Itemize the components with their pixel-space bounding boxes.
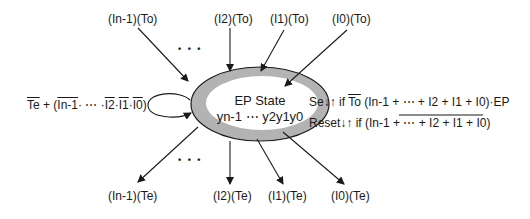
reset-prefix: Reset↓↑ if (	[309, 116, 369, 130]
arrow-out-i1	[257, 139, 283, 184]
output-label-i1-te: (I1)(Te)	[268, 189, 307, 203]
output-label-i2-te: (I2)(Te)	[213, 189, 252, 203]
ellipsis-bottom: • • •	[178, 155, 202, 165]
i2-bar: I2	[105, 98, 115, 112]
i0-bar: I0	[133, 98, 143, 112]
close-paren: )	[143, 98, 147, 112]
set-rule: Se↓↑ if To (In-1 + ⋯ + I2 + I1 + I0)·EP	[309, 95, 510, 109]
to-bar: To	[348, 95, 361, 109]
mid-ellipsis: · ⋯ ·	[78, 98, 105, 112]
plus-open: + (	[40, 98, 58, 112]
arrow-in-i1	[261, 30, 284, 71]
set-expr: (In-1 + ⋯ + I2 + I1 + I0)·EP	[361, 95, 510, 109]
ellipsis-top: • • •	[178, 44, 202, 54]
output-label-in-1-te: (In-1)(Te)	[108, 189, 157, 203]
reset-expr: In-1 + ⋯ + I2 + I1 + I0	[369, 116, 486, 130]
in-1-bar: In-1	[57, 98, 78, 112]
arrow-out-i0	[283, 132, 344, 184]
set-prefix: Se↓↑ if	[309, 95, 348, 109]
te-bar: Te	[27, 98, 40, 112]
reset-rule: Reset↓↑ if (In-1 + ⋯ + I2 + I1 + I0)	[309, 116, 490, 130]
arrow-in-i0	[285, 30, 347, 86]
input-label-i0-to: (I0)(To)	[332, 12, 371, 26]
input-label-i1-to: (I1)(To)	[270, 12, 309, 26]
input-label-in-1-to: (In-1)(To)	[108, 12, 157, 26]
state-bits: yn-1 ⋯ y2y1y0	[195, 109, 325, 124]
arrow-in-n1	[138, 28, 188, 81]
state-name: EP State	[205, 93, 315, 108]
reset-close: )	[486, 116, 490, 130]
input-label-i2-to: (I2)(To)	[214, 12, 253, 26]
output-label-i0-te: (I0)(Te)	[331, 189, 370, 203]
self-loop-arrow	[148, 94, 191, 117]
i1-bar: I1	[119, 98, 129, 112]
self-loop-condition: Te + (In-1· ⋯ ·I2·I1·I0)	[27, 98, 147, 112]
